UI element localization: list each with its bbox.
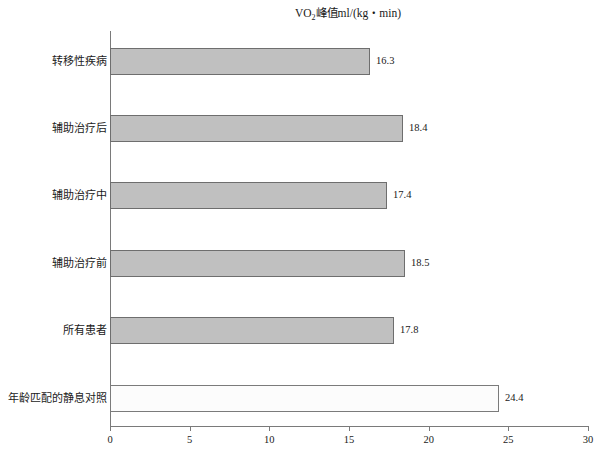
category-label: 所有患者: [0, 323, 112, 337]
bar-value-label: 17.8: [400, 323, 418, 337]
bar: [110, 250, 405, 277]
category-label: 辅助治疗中: [0, 188, 112, 202]
x-tick-mark: [190, 426, 191, 431]
bar: [110, 182, 387, 209]
chart-title: VO2峰值ml/(kg・min): [258, 6, 438, 25]
bar-value-label: 17.4: [393, 188, 411, 202]
chart-title-units: 峰值ml/(kg・min): [316, 7, 401, 19]
x-tick-label: 20: [414, 433, 444, 446]
x-tick-label: 10: [254, 433, 284, 446]
bar-value-label: 18.5: [411, 256, 429, 270]
bar-value-label: 16.3: [376, 54, 394, 68]
x-tick-mark: [429, 426, 430, 431]
x-tick-mark: [349, 426, 350, 431]
category-label: 辅助治疗前: [0, 256, 112, 270]
category-label: 转移性疾病: [0, 54, 112, 68]
x-tick-label: 25: [493, 433, 523, 446]
x-tick-label: 30: [573, 433, 603, 446]
bar-value-label: 24.4: [505, 391, 523, 405]
x-tick-mark: [269, 426, 270, 431]
bar: [110, 385, 499, 412]
x-tick-label: 0: [95, 433, 125, 446]
x-tick-mark: [508, 426, 509, 431]
x-tick-mark: [110, 426, 111, 431]
bar: [110, 317, 394, 344]
x-tick-label: 15: [334, 433, 364, 446]
plot-area: [110, 31, 588, 426]
chart-title-vo: VO: [295, 7, 312, 19]
category-label: 年龄匹配的静息对照: [0, 391, 112, 405]
bar: [110, 48, 370, 75]
bar-chart: VO2峰值ml/(kg・min) 转移性疾病辅助治疗后辅助治疗中辅助治疗前所有患…: [0, 0, 606, 452]
x-tick-mark: [588, 426, 589, 431]
category-label: 辅助治疗后: [0, 121, 112, 135]
bar: [110, 115, 403, 142]
bar-value-label: 18.4: [409, 121, 427, 135]
x-tick-label: 5: [175, 433, 205, 446]
